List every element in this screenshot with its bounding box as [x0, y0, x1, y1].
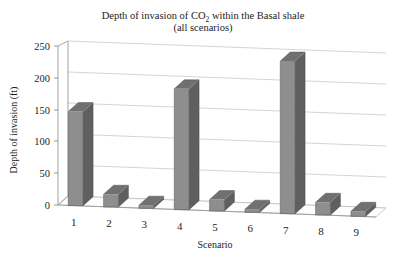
chart-background	[0, 0, 406, 261]
y-axis-title: Depth of invasion (ft)	[8, 87, 20, 174]
bar-front-face	[210, 200, 225, 211]
y-tick-label-0: 0	[45, 200, 50, 211]
bar-side-face	[295, 52, 305, 214]
chart-container: Depth of invasion of CO2 within the Basa…	[0, 0, 406, 261]
x-axis-title: Scenario	[198, 239, 233, 250]
x-tick-label-3: 3	[142, 218, 148, 230]
y-tick-label-250: 250	[34, 41, 50, 52]
bar-scenario-1	[68, 103, 93, 206]
chart-title-post: within the Basal shale	[209, 10, 304, 21]
bar-scenario-4	[174, 80, 199, 210]
y-tick-label-50: 50	[40, 168, 51, 179]
x-tick-label-8: 8	[318, 225, 324, 237]
x-tick-label-5: 5	[212, 221, 218, 233]
chart-subtitle: (all scenarios)	[173, 22, 233, 34]
bar-front-face	[68, 112, 83, 206]
y-tick-label-100: 100	[34, 136, 50, 147]
bar-scenario-7	[280, 52, 305, 214]
x-tick-label-2: 2	[106, 217, 112, 229]
bar-front-face	[104, 194, 119, 207]
x-tick-label-7: 7	[283, 224, 289, 236]
bar-front-face	[316, 202, 331, 215]
chart-title-pre: Depth of invasion of CO	[102, 10, 206, 21]
bar-front-face	[245, 209, 260, 212]
bar-front-face	[174, 89, 189, 210]
bar-side-face	[189, 80, 199, 210]
x-tick-label-6: 6	[248, 222, 254, 234]
bar-front-face	[139, 205, 154, 208]
bar-chart-3d: Depth of invasion of CO2 within the Basa…	[0, 0, 406, 261]
bar-front-face	[280, 61, 295, 214]
x-tick-label-1: 1	[71, 216, 77, 228]
bar-front-face	[351, 211, 366, 216]
x-tick-label-9: 9	[354, 226, 360, 238]
x-tick-label-4: 4	[177, 220, 183, 232]
y-tick-label-150: 150	[34, 105, 50, 116]
y-tick-label-200: 200	[34, 73, 50, 84]
bar-side-face	[83, 103, 93, 206]
